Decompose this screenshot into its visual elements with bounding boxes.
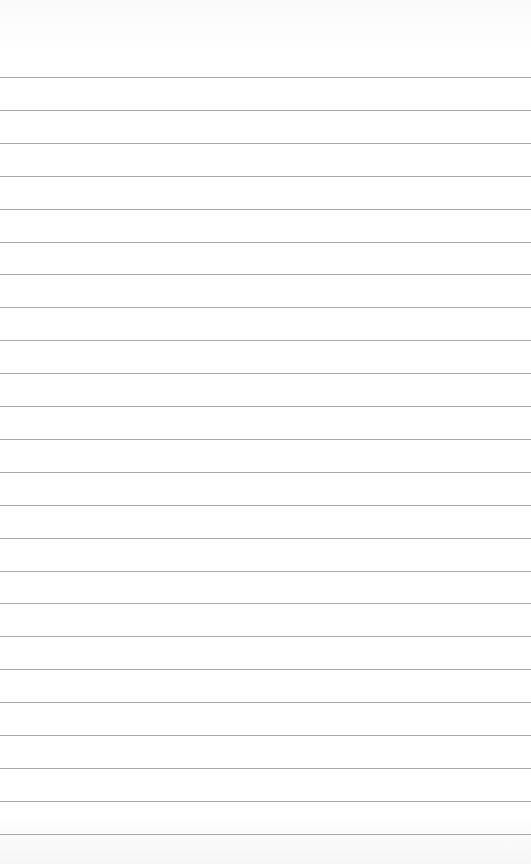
ruled-paper bbox=[0, 0, 531, 864]
ruled-line bbox=[0, 209, 531, 210]
ruled-line bbox=[0, 373, 531, 374]
ruled-line bbox=[0, 307, 531, 308]
ruled-line bbox=[0, 472, 531, 473]
ruled-line bbox=[0, 768, 531, 769]
ruled-line bbox=[0, 505, 531, 506]
ruled-line bbox=[0, 636, 531, 637]
ruled-line bbox=[0, 603, 531, 604]
ruled-line bbox=[0, 735, 531, 736]
ruled-line bbox=[0, 143, 531, 144]
ruled-line bbox=[0, 242, 531, 243]
ruled-line bbox=[0, 801, 531, 802]
ruled-line bbox=[0, 176, 531, 177]
ruled-line bbox=[0, 274, 531, 275]
ruled-line bbox=[0, 439, 531, 440]
ruled-line bbox=[0, 702, 531, 703]
ruled-line bbox=[0, 834, 531, 835]
ruled-line bbox=[0, 571, 531, 572]
ruled-line bbox=[0, 340, 531, 341]
ruled-line bbox=[0, 538, 531, 539]
ruled-line bbox=[0, 669, 531, 670]
ruled-line bbox=[0, 77, 531, 78]
ruled-line bbox=[0, 110, 531, 111]
ruled-line bbox=[0, 406, 531, 407]
